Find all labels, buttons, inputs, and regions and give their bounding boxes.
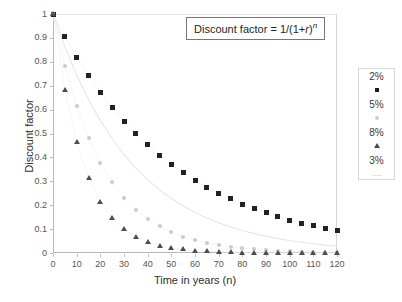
legend-item-2pct[interactable]: 2% <box>359 71 394 91</box>
x-tick-label: 120 <box>329 260 344 269</box>
data-point-8pct <box>322 250 328 255</box>
x-tick-label: 110 <box>306 260 320 269</box>
data-point-5pct <box>181 235 185 239</box>
x-tick-mark <box>195 254 196 257</box>
data-point-5pct <box>87 136 91 140</box>
data-point-2pct <box>86 73 91 78</box>
y-tick-label: 0.9 <box>34 33 47 42</box>
y-tick-label: 0.8 <box>34 57 47 66</box>
y-tick-mark <box>50 157 53 158</box>
x-tick-label: 10 <box>72 260 82 269</box>
data-point-8pct <box>97 199 103 204</box>
data-point-5pct <box>217 243 221 247</box>
data-point-8pct <box>287 250 293 255</box>
data-point-2pct <box>335 228 340 233</box>
x-tick-mark <box>53 254 54 257</box>
legend-item-5pct[interactable]: 5% <box>359 99 394 119</box>
legend-marker-slot <box>359 82 394 91</box>
formula-exponent: n <box>313 21 317 30</box>
data-point-2pct <box>311 223 316 228</box>
x-tick-label: 0 <box>50 260 55 269</box>
data-point-8pct <box>133 234 139 239</box>
y-tick-mark <box>50 134 53 135</box>
y-tick-label: 0.1 <box>34 225 47 234</box>
legend-marker-line-icon <box>372 175 382 176</box>
data-point-2pct <box>169 162 174 167</box>
data-point-8pct <box>121 226 127 231</box>
data-point-2pct <box>264 210 269 215</box>
y-tick-label: 0 <box>42 249 47 258</box>
y-tick-mark <box>50 205 53 206</box>
legend-marker-slot <box>359 166 394 175</box>
data-point-2pct <box>74 55 79 60</box>
data-point-2pct <box>216 191 221 196</box>
data-point-8pct <box>239 250 245 255</box>
legend-label: 5% <box>359 99 394 110</box>
data-point-8pct <box>228 249 234 254</box>
x-axis-title: Time in years (n) <box>53 274 337 286</box>
x-tick-label: 60 <box>190 260 200 269</box>
y-tick-label: 0.5 <box>34 129 47 138</box>
data-point-8pct <box>310 250 316 255</box>
data-point-8pct <box>263 250 269 255</box>
x-tick-mark <box>148 254 149 257</box>
data-point-2pct <box>287 218 292 223</box>
formula-annotation: Discount factor = 1/(1+r)n <box>186 17 325 40</box>
data-point-2pct <box>133 131 138 136</box>
data-point-5pct <box>63 64 67 68</box>
legend-item-3pct[interactable]: 3% <box>359 155 394 175</box>
x-tick-label: 50 <box>166 260 176 269</box>
y-tick-label: 0.2 <box>34 201 47 210</box>
legend-marker-slot <box>359 110 394 119</box>
data-point-5pct <box>146 217 150 221</box>
legend-marker-square-icon <box>375 88 379 92</box>
data-point-2pct <box>110 105 115 110</box>
data-point-8pct <box>216 249 222 254</box>
data-point-5pct <box>122 196 126 200</box>
x-tick-label: 30 <box>119 260 129 269</box>
data-point-2pct <box>204 185 209 190</box>
data-point-8pct <box>62 87 68 92</box>
data-point-8pct <box>74 139 80 144</box>
x-tick-mark <box>219 254 220 257</box>
x-tick-label: 100 <box>282 260 297 269</box>
x-tick-label: 90 <box>261 260 271 269</box>
x-tick-mark <box>171 254 172 257</box>
x-tick-label: 80 <box>237 260 247 269</box>
data-point-2pct <box>252 206 257 211</box>
plot-area <box>53 14 337 253</box>
data-point-2pct <box>122 119 127 124</box>
legend-label: 2% <box>359 71 394 82</box>
x-tick-label: 40 <box>143 260 153 269</box>
data-point-2pct <box>193 178 198 183</box>
data-point-8pct <box>168 245 174 250</box>
data-point-8pct <box>50 11 56 16</box>
discount-factor-chart: 00.10.20.30.40.50.60.70.80.91 0102030405… <box>0 0 402 302</box>
data-point-2pct <box>228 196 233 201</box>
y-tick-label: 0.3 <box>34 177 47 186</box>
data-point-2pct <box>181 170 186 175</box>
data-point-2pct <box>62 34 67 39</box>
data-point-8pct <box>299 250 305 255</box>
legend-label: 3% <box>359 155 394 166</box>
y-tick-mark <box>50 38 53 39</box>
y-tick-mark <box>50 229 53 230</box>
data-point-2pct <box>275 214 280 219</box>
data-point-2pct <box>323 226 328 231</box>
y-tick-mark <box>50 110 53 111</box>
legend: 2%5%8%3% <box>358 68 395 180</box>
y-tick-mark <box>50 86 53 87</box>
y-axis-title: Discount factor <box>23 56 35 216</box>
legend-item-8pct[interactable]: 8% <box>359 127 394 147</box>
data-point-8pct <box>204 248 210 253</box>
data-point-8pct <box>86 175 92 180</box>
data-point-5pct <box>229 245 233 249</box>
y-tick-label: 0.7 <box>34 81 47 90</box>
data-point-2pct <box>240 202 245 207</box>
data-point-8pct <box>145 239 151 244</box>
legend-marker-circle-icon <box>375 116 379 120</box>
data-point-8pct <box>157 243 163 248</box>
x-tick-mark <box>100 254 101 257</box>
y-tick-mark <box>50 62 53 63</box>
data-point-2pct <box>98 90 103 95</box>
